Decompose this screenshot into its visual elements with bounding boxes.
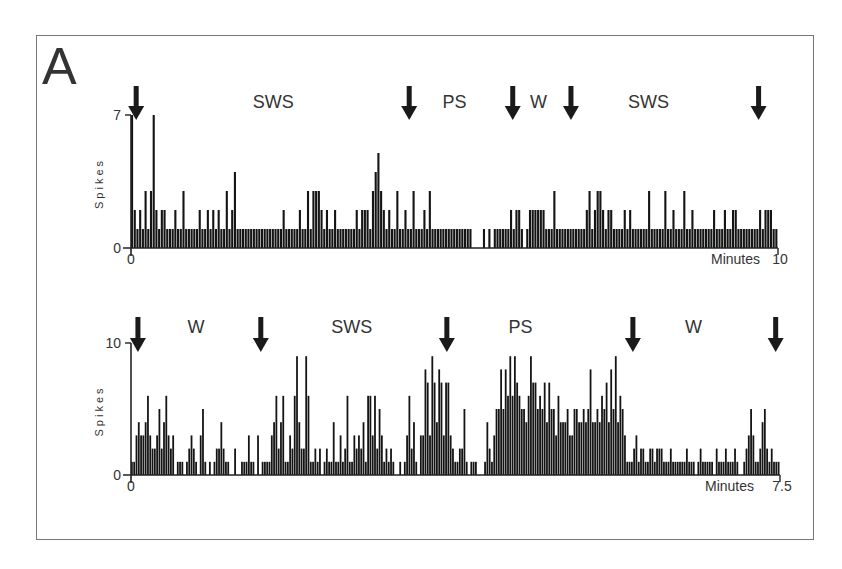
histogram-bar	[278, 449, 280, 475]
histogram-bar	[291, 229, 293, 248]
histogram-bar	[242, 229, 244, 248]
histogram-bar	[489, 449, 491, 475]
histogram-bar	[134, 210, 136, 248]
histogram-bar	[422, 435, 424, 475]
histogram-bar	[337, 229, 339, 248]
histogram-bar	[193, 449, 195, 475]
histogram-bar	[766, 449, 768, 475]
histogram-bar	[282, 396, 284, 475]
histogram-bar	[450, 435, 452, 475]
histogram-bar	[545, 229, 547, 248]
histogram-bar	[574, 409, 576, 475]
histogram-bar	[264, 462, 266, 475]
histogram-bar	[585, 422, 587, 475]
histogram-bar	[209, 462, 211, 475]
histogram-bar	[514, 356, 516, 475]
histogram-bar	[592, 422, 594, 475]
histogram-bar	[736, 462, 738, 475]
histogram-bar	[564, 229, 566, 248]
histogram-bar	[165, 396, 167, 475]
histogram-bar	[459, 229, 461, 248]
histogram-bar	[683, 191, 685, 248]
histogram-bar	[773, 462, 775, 475]
histogram-bar	[587, 409, 589, 475]
histogram-bar	[283, 210, 285, 248]
histogram-bar	[597, 191, 599, 248]
histogram-bar	[770, 210, 772, 248]
histogram-bar	[456, 229, 458, 248]
histogram-bar	[525, 422, 527, 475]
histogram-bar	[617, 422, 619, 475]
top-histogram	[131, 115, 777, 248]
histogram-bar	[548, 383, 550, 475]
histogram-bar	[161, 449, 163, 475]
histogram-bar	[718, 229, 720, 248]
histogram-bar	[239, 229, 241, 248]
histogram-bar	[602, 210, 604, 248]
histogram-bar	[293, 229, 295, 248]
histogram-bar	[707, 462, 709, 475]
histogram-bar	[537, 210, 539, 248]
histogram-bar	[778, 462, 780, 475]
histogram-bar	[372, 435, 374, 475]
histogram-bar	[195, 462, 197, 475]
histogram-bar	[737, 229, 739, 248]
histogram-bar	[746, 449, 748, 475]
histogram-bar	[440, 229, 442, 248]
histogram-bar	[532, 383, 534, 475]
histogram-bar	[570, 229, 572, 248]
histogram-bar	[220, 422, 222, 475]
histogram-bar	[350, 229, 352, 248]
histogram-bar	[275, 396, 277, 475]
histogram-bar	[496, 229, 498, 248]
histogram-bar	[535, 383, 537, 475]
histogram-bar	[640, 229, 642, 248]
histogram-bar	[572, 229, 574, 248]
histogram-bar	[204, 229, 206, 248]
histogram-bar	[752, 435, 754, 475]
histogram-bar	[245, 229, 247, 248]
histogram-bar	[328, 462, 330, 475]
histogram-bar	[510, 210, 512, 248]
histogram-bar	[149, 435, 151, 475]
histogram-bar	[331, 462, 333, 475]
y-tick-max: 7	[113, 107, 121, 123]
histogram-bar	[223, 229, 225, 248]
histogram-bar	[594, 422, 596, 475]
chart-canvas: 70010MinutesSpikesSWSPSWSWS10007.5Minute…	[0, 0, 842, 569]
histogram-bar	[675, 462, 677, 475]
histogram-bar	[158, 229, 160, 248]
histogram-bar	[166, 229, 168, 248]
histogram-bar	[635, 229, 637, 248]
histogram-bar	[234, 449, 236, 475]
histogram-bar	[670, 449, 672, 475]
histogram-bar	[348, 229, 350, 248]
histogram-bar	[546, 422, 548, 475]
histogram-bar	[658, 449, 660, 475]
histogram-bar	[548, 229, 550, 248]
histogram-bar	[762, 422, 764, 475]
histogram-bar	[152, 449, 154, 475]
histogram-bar	[360, 449, 362, 475]
histogram-bar	[716, 229, 718, 248]
transition-arrow-icon	[130, 317, 146, 352]
histogram-bar	[287, 462, 289, 475]
histogram-bar	[191, 229, 193, 248]
histogram-bar	[212, 210, 214, 248]
histogram-bar	[578, 422, 580, 475]
histogram-bar	[161, 210, 163, 248]
histogram-bar	[678, 229, 680, 248]
histogram-bar	[553, 191, 555, 248]
histogram-bar	[296, 356, 298, 475]
histogram-bar	[436, 422, 438, 475]
histogram-bar	[315, 191, 317, 248]
histogram-bar	[589, 191, 591, 248]
histogram-bar	[597, 409, 599, 475]
histogram-bar	[769, 462, 771, 475]
histogram-bar	[452, 449, 454, 475]
histogram-bar	[179, 462, 181, 475]
histogram-bar	[583, 229, 585, 248]
histogram-bar	[321, 210, 323, 248]
histogram-bar	[684, 462, 686, 475]
histogram-bar	[640, 449, 642, 475]
